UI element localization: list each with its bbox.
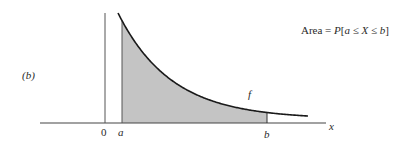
- panel-label: (b): [22, 69, 35, 82]
- curve-label-f: f: [248, 88, 253, 100]
- area-annotation: Area = P[a ≤ X ≤ b]: [301, 24, 389, 36]
- x-axis-label: x: [328, 120, 334, 132]
- probability-density-diagram: (b) Area = P[a ≤ X ≤ b] f x 0 a b: [0, 0, 409, 151]
- b-label: b: [264, 128, 270, 140]
- shaded-area: [122, 21, 267, 123]
- a-label: a: [118, 126, 124, 138]
- origin-label: 0: [101, 126, 107, 138]
